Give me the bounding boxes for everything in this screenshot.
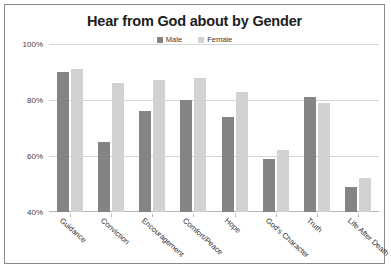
bar-male bbox=[180, 100, 192, 212]
x-axis-tick bbox=[235, 214, 236, 217]
x-axis-label-cell: Truth bbox=[297, 214, 338, 268]
bar-group bbox=[173, 44, 214, 212]
bar-male bbox=[263, 159, 275, 212]
x-axis-label-cell: Guidance bbox=[49, 214, 90, 268]
bar-female bbox=[112, 83, 124, 212]
bar-male bbox=[222, 117, 234, 212]
y-axis-tick-label: 100% bbox=[23, 40, 43, 49]
x-axis-label: Truth bbox=[305, 216, 324, 234]
bar-groups bbox=[49, 44, 379, 212]
chart-legend: Male Female bbox=[5, 35, 384, 44]
chart-container: Hear from God about by Gender Male Femal… bbox=[4, 4, 385, 264]
bar-group bbox=[338, 44, 379, 212]
legend-item-female: Female bbox=[198, 35, 232, 44]
y-axis-tick-label: 80% bbox=[27, 96, 43, 105]
x-axis-tick bbox=[152, 214, 153, 217]
plot-area: 100%80%60%40% bbox=[49, 44, 379, 212]
x-axis-label: Conviction bbox=[99, 216, 131, 246]
bar-female bbox=[153, 80, 165, 212]
legend-item-male: Male bbox=[157, 35, 182, 44]
x-axis-label-cell: Life After Death bbox=[338, 214, 379, 268]
bar-male bbox=[139, 111, 151, 212]
x-axis-tick bbox=[358, 214, 359, 217]
bar-male bbox=[57, 72, 69, 212]
x-axis-tick bbox=[193, 214, 194, 217]
x-axis-label-cell: Encouragement bbox=[132, 214, 173, 268]
y-axis-tick-label: 40% bbox=[27, 208, 43, 217]
bar-male bbox=[304, 97, 316, 212]
bar-group bbox=[132, 44, 173, 212]
bar-female bbox=[318, 103, 330, 212]
x-axis-label-cell: God's Character bbox=[255, 214, 296, 268]
bar-female bbox=[359, 178, 371, 212]
bar-male bbox=[345, 187, 357, 212]
legend-swatch-female bbox=[198, 37, 204, 43]
x-axis-tick bbox=[111, 214, 112, 217]
bar-group bbox=[49, 44, 90, 212]
legend-label-male: Male bbox=[166, 35, 182, 44]
x-axis-label: Life After Death bbox=[346, 216, 391, 258]
bar-female bbox=[236, 92, 248, 212]
bar-female bbox=[71, 69, 83, 212]
x-axis-label: Guidance bbox=[58, 216, 88, 244]
bar-group bbox=[90, 44, 131, 212]
x-axis-label-cell: Comfort/Peace bbox=[173, 214, 214, 268]
bar-group bbox=[255, 44, 296, 212]
bar-female bbox=[194, 78, 206, 212]
x-axis-label-cell: Conviction bbox=[90, 214, 131, 268]
x-axis-labels: GuidanceConvictionEncouragementComfort/P… bbox=[49, 214, 379, 268]
bar-group bbox=[297, 44, 338, 212]
x-axis-label-cell: Hope bbox=[214, 214, 255, 268]
x-axis-tick bbox=[317, 214, 318, 217]
bar-female bbox=[277, 150, 289, 212]
chart-title: Hear from God about by Gender bbox=[5, 13, 384, 29]
legend-label-female: Female bbox=[207, 35, 232, 44]
legend-swatch-male bbox=[157, 37, 163, 43]
bar-male bbox=[98, 142, 110, 212]
x-axis-label: Hope bbox=[223, 216, 243, 235]
x-axis-tick bbox=[70, 214, 71, 217]
y-axis-tick-label: 60% bbox=[27, 152, 43, 161]
bar-group bbox=[214, 44, 255, 212]
x-axis-tick bbox=[276, 214, 277, 217]
